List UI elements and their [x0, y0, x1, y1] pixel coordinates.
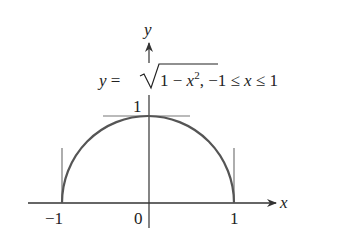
y-axis-label: y [142, 20, 152, 39]
diagram-canvas: y x y = 1 − x2, −1 ≤ x ≤ 1 1 −1 0 1 [0, 0, 339, 243]
semicircle-curve [62, 116, 234, 203]
tick-x-one: 1 [230, 209, 239, 228]
semicircle-diagram: y x y = 1 − x2, −1 ≤ x ≤ 1 1 −1 0 1 [0, 0, 339, 243]
x-axis-label: x [279, 193, 288, 212]
svg-text:y =: y = [97, 71, 120, 90]
tick-origin: 0 [134, 209, 143, 228]
function-formula: y = 1 − x2, −1 ≤ x ≤ 1 [97, 64, 278, 90]
tick-x-neg-one: −1 [45, 209, 63, 228]
tick-y-one: 1 [133, 97, 142, 116]
svg-text:1 − x2, −1 ≤ x ≤ 1: 1 − x2, −1 ≤ x ≤ 1 [160, 69, 278, 90]
